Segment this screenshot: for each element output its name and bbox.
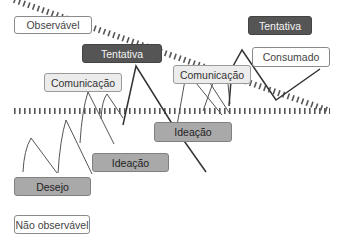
ideacao-box-2: Ideação bbox=[154, 122, 232, 142]
ideacao-box-1: Ideação bbox=[92, 153, 169, 172]
tentativa-box-1: Tentativa bbox=[82, 44, 162, 63]
desejo-box: Desejo bbox=[14, 177, 91, 196]
comunicacao-box-1: Comunicação bbox=[44, 73, 122, 92]
comunicacao-box-2: Comunicação bbox=[173, 65, 251, 84]
not-observable-label: Não observável bbox=[14, 215, 90, 234]
tentativa-box-2: Tentativa bbox=[248, 16, 312, 35]
consumado-box: Consumado bbox=[252, 47, 330, 67]
observable-label: Observável bbox=[14, 16, 92, 34]
